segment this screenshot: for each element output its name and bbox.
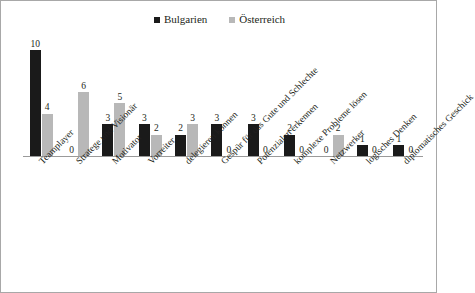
bar-slot: 10 (30, 36, 41, 156)
bar-value-label: 10 (30, 40, 40, 50)
bar-value-label: 0 (69, 146, 74, 156)
bar-slot: 6 (78, 36, 89, 156)
bar[interactable] (30, 50, 41, 156)
bar[interactable] (393, 145, 404, 156)
bar-slot: 0 (223, 36, 234, 156)
bar[interactable] (357, 145, 368, 156)
bar-slot: 3 (187, 36, 198, 156)
legend-square-icon (154, 17, 160, 23)
bar-slot: 2 (151, 36, 162, 156)
bar-value-label: 5 (118, 93, 123, 103)
legend-entry[interactable]: Bulgarien (154, 14, 207, 25)
bar-value-label: 3 (142, 114, 147, 124)
bar-slot: 2 (175, 36, 186, 156)
bar-value-label: 0 (324, 146, 329, 156)
bar-slot: 2 (333, 36, 344, 156)
bar-slot: 4 (42, 36, 53, 156)
bar[interactable] (175, 135, 186, 156)
bar-value-label: 6 (81, 82, 86, 92)
bar-slot: 0 (296, 36, 307, 156)
bar-value-label: 3 (190, 114, 195, 124)
chart-legend: BulgarienÖsterreich (1, 14, 438, 25)
x-axis-labels: TeamplayerStratege und VisionärMotivator… (23, 159, 423, 291)
bar-slot: 0 (405, 36, 416, 156)
bar-value-label: 4 (45, 103, 50, 113)
legend-entry[interactable]: Österreich (229, 14, 285, 25)
bar-slot: 0 (369, 36, 380, 156)
legend-label: Österreich (239, 14, 285, 25)
bar-slot: 5 (114, 36, 125, 156)
bar-group: 104 (23, 36, 59, 156)
bar-value-label: 2 (154, 124, 159, 134)
bar-value-label: 2 (178, 124, 183, 134)
legend-label: Bulgarien (164, 14, 207, 25)
bar-slot: 0 (260, 36, 271, 156)
legend-square-icon (229, 17, 235, 23)
